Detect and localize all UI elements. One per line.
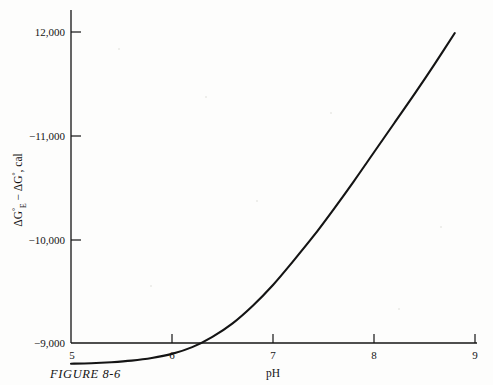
- y-axis-title-units: , cal: [12, 153, 25, 172]
- svg-text:ΔG°E − ΔG°, cal: ΔG°E − ΔG°, cal: [11, 153, 28, 226]
- y-tick-label: 12,000: [35, 26, 66, 38]
- chart-plot: 12,000 −11,000 −10,000 −9,000 5 6 7 8 9 …: [0, 0, 493, 385]
- y-axis-title: ΔG°E − ΔG°, cal: [11, 153, 28, 226]
- x-axis-ticks: [172, 334, 475, 343]
- y-axis-ticks: [71, 32, 81, 240]
- y-tick-label: −11,000: [29, 130, 66, 142]
- y-axis-title-delta: ΔG: [12, 175, 24, 191]
- data-series-curve: [71, 33, 455, 364]
- x-tick-label: 9: [472, 349, 478, 361]
- y-axis-title-minus: −: [12, 191, 24, 203]
- x-tick-label: 5: [69, 349, 75, 361]
- x-tick-label: 8: [371, 349, 377, 361]
- y-tick-label: −10,000: [29, 234, 66, 246]
- x-axis-title: pH: [266, 367, 280, 380]
- x-tick-label: 7: [270, 349, 276, 361]
- figure-container: 12,000 −11,000 −10,000 −9,000 5 6 7 8 9 …: [0, 0, 493, 385]
- y-tick-label: −9,000: [34, 337, 65, 349]
- y-axis-title-delta-e: ΔG: [12, 211, 24, 227]
- figure-caption: FIGURE 8-6: [49, 367, 121, 381]
